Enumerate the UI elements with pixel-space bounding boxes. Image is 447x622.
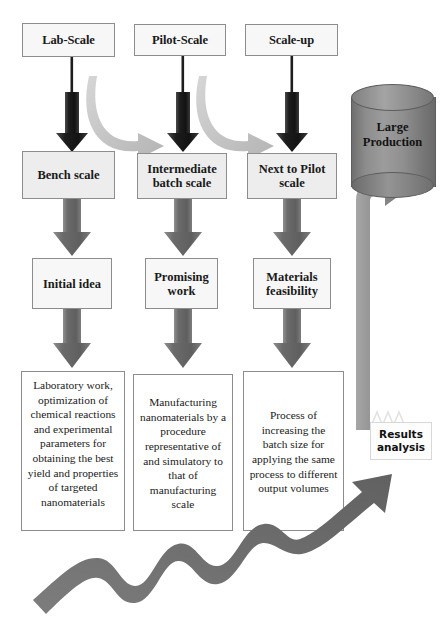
results-analysis-box[interactable]: Results analysis	[370, 422, 432, 460]
growth-wave-arrow	[33, 474, 392, 614]
results-analysis-label: Results analysis	[371, 428, 431, 454]
diagram-canvas: Lab-Scale Pilot-Scale Scale-up Bench sca…	[0, 0, 447, 622]
growth-wave-arrow-layer	[0, 0, 447, 622]
